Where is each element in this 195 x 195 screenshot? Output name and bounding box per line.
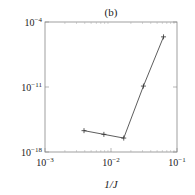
data-point-marker <box>82 128 87 133</box>
series-group <box>82 34 167 140</box>
data-point-marker <box>161 34 166 39</box>
minor-ticks <box>65 22 174 152</box>
y-tick-label: 10−4 <box>25 16 43 28</box>
data-point-marker <box>101 132 106 137</box>
y-axis-ticks: 10−410−1110−18 <box>21 16 177 158</box>
data-point-marker <box>121 136 126 141</box>
plot-frame <box>45 22 177 152</box>
x-axis-label: 1/J <box>104 178 119 190</box>
x-tick-label: 10−1 <box>168 156 186 168</box>
x-axis-ticks: 10−310−210−1 <box>36 148 186 168</box>
y-tick-label: 10−11 <box>21 81 42 93</box>
chart: (b) 10−310−210−1 10−410−1110−18 1/J <box>0 0 195 195</box>
x-tick-label: 10−3 <box>36 156 54 168</box>
x-tick-label: 10−2 <box>102 156 120 168</box>
series-line <box>84 37 164 138</box>
data-point-marker <box>141 84 146 89</box>
chart-title: (b) <box>105 6 118 19</box>
